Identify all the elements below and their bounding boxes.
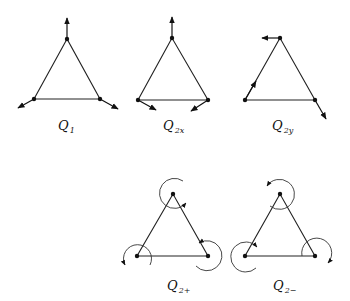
vertex: [135, 254, 139, 258]
displacement-arrow-icon: [315, 100, 326, 119]
diagram-q2plus: [123, 178, 221, 270]
vibrational-modes-diagram: [0, 0, 350, 301]
diagram-q2minus: [231, 179, 332, 272]
triangle: [245, 194, 315, 256]
vertex: [243, 254, 247, 258]
diagram-q2y: [243, 36, 326, 119]
displacement-arrow-icon: [18, 99, 34, 108]
label-q2plus: Q2+: [167, 278, 190, 295]
triangle: [138, 38, 208, 100]
triangle: [245, 38, 315, 100]
label-q1: Q1: [58, 118, 75, 135]
label-q2y: Q2y: [272, 118, 293, 135]
label-q2x: Q2x: [163, 118, 184, 135]
rotation-arrow-icon: [302, 238, 332, 263]
diagram-q1: [18, 18, 118, 109]
vertex: [171, 192, 175, 196]
label-q2minus: Q2−: [273, 278, 296, 295]
vertex: [206, 254, 210, 258]
triangle: [137, 194, 208, 256]
displacement-arrow-icon: [245, 81, 256, 100]
triangle: [34, 39, 100, 99]
displacement-arrow-icon: [191, 100, 208, 111]
vertex: [278, 192, 282, 196]
displacement-arrow-icon: [100, 99, 118, 109]
diagram-q2x: [136, 17, 210, 111]
displacement-arrow-icon: [138, 100, 156, 110]
vertex: [313, 254, 317, 258]
